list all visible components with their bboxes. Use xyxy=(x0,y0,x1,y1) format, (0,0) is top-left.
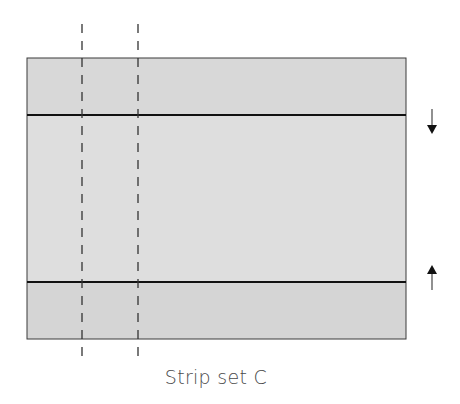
top-strip xyxy=(27,58,406,115)
press-arrow-down-icon xyxy=(427,109,437,134)
center-strip xyxy=(27,115,406,282)
strip-set-diagram xyxy=(0,0,460,404)
press-arrow-up-icon xyxy=(427,265,437,290)
bottom-strip xyxy=(27,282,406,339)
diagram-caption: Strip set C xyxy=(0,366,432,388)
